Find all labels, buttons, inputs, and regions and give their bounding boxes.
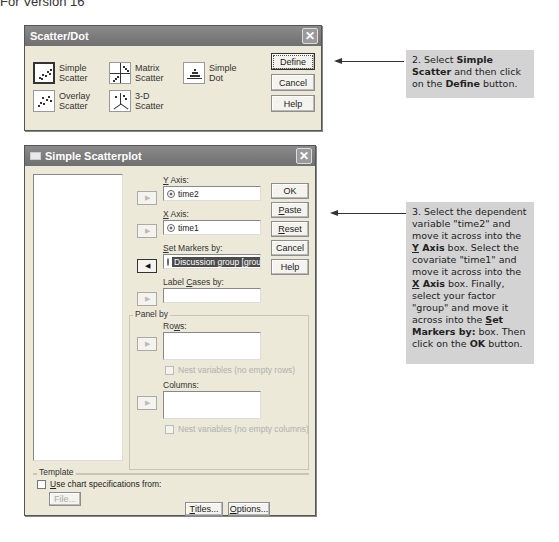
label-text: Label bbox=[163, 277, 186, 287]
scale-variable-icon bbox=[167, 190, 175, 198]
label-line1: 3-D bbox=[135, 91, 164, 101]
scale-variable-icon bbox=[167, 224, 175, 232]
label-text: Ro bbox=[163, 321, 174, 331]
callout-step3: 3. Select the dependent variable "time2"… bbox=[406, 202, 534, 364]
scatter-dot-dialog: Scatter/Dot ✕ SimpleScatter MatrixScatte… bbox=[24, 25, 322, 131]
arrow-right-icon: ▶ bbox=[145, 340, 150, 348]
arrow-right-icon: ▶ bbox=[145, 295, 150, 303]
move-columns-button[interactable]: ▶ bbox=[137, 396, 157, 410]
page-header: For Version 16 bbox=[0, 0, 85, 9]
dialog-title: Scatter/Dot bbox=[30, 30, 89, 42]
set-markers-field[interactable]: Discussion group [group bbox=[163, 254, 261, 269]
label-line2: Scatter bbox=[135, 101, 164, 111]
label-cases-label: Label Cases by: bbox=[163, 277, 224, 287]
reset-button[interactable]: Reset bbox=[271, 221, 309, 237]
ok-button[interactable]: OK bbox=[271, 183, 309, 199]
y-axis-field[interactable]: time2 bbox=[163, 186, 261, 201]
close-icon: ✕ bbox=[299, 150, 309, 162]
label-text: ptions... bbox=[237, 504, 269, 514]
chart-type-overlay-scatter[interactable]: OverlayScatter bbox=[33, 90, 90, 112]
note-text: button. bbox=[485, 338, 522, 349]
note-bold: Axis bbox=[419, 278, 445, 289]
simple-scatterplot-dialog: Simple Scatterplot ✕ ▶ Y Axis: time2 ▶ X… bbox=[24, 145, 316, 516]
nest-rows-checkbox[interactable]: Nest variables (no empty rows) bbox=[165, 365, 295, 375]
x-axis-value: time1 bbox=[178, 223, 199, 233]
close-button[interactable]: ✕ bbox=[302, 28, 318, 44]
move-y-axis-button[interactable]: ▶ bbox=[137, 191, 157, 205]
rows-list[interactable] bbox=[163, 332, 261, 360]
use-chart-specs-checkbox[interactable]: Use chart specifications from: bbox=[37, 479, 162, 489]
set-markers-value: Discussion group [group bbox=[172, 257, 261, 267]
y-axis-value: time2 bbox=[178, 189, 199, 199]
paste-button[interactable]: Paste bbox=[271, 202, 309, 218]
simple-scatter-icon bbox=[33, 62, 55, 84]
define-button[interactable]: Define bbox=[271, 53, 315, 70]
titlebar: Scatter/Dot ✕ bbox=[25, 26, 321, 46]
label-text: Axis: bbox=[169, 209, 189, 219]
help-button[interactable]: Help bbox=[271, 259, 309, 275]
checkbox-label: Nest variables (no empty rows) bbox=[178, 365, 295, 375]
label-line2: Scatter bbox=[59, 101, 90, 111]
file-button[interactable]: File... bbox=[49, 492, 81, 506]
label-line1: Simple bbox=[209, 63, 237, 73]
define-label: Define bbox=[273, 55, 313, 69]
checkbox-label: se chart specifications from: bbox=[56, 479, 161, 489]
cancel-button[interactable]: Cancel bbox=[271, 240, 309, 256]
panel-by-title: Panel by bbox=[133, 309, 170, 319]
template-title: Template bbox=[37, 467, 76, 477]
label-cases-field[interactable] bbox=[163, 288, 261, 303]
3d-scatter-icon bbox=[109, 90, 131, 112]
chart-type-matrix-scatter[interactable]: MatrixScatter bbox=[109, 62, 164, 84]
move-rows-button[interactable]: ▶ bbox=[137, 337, 157, 351]
chart-type-simple-scatter[interactable]: SimpleScatter bbox=[33, 62, 88, 84]
simple-dot-icon bbox=[183, 62, 205, 84]
label-text: eset bbox=[285, 224, 302, 234]
move-set-markers-button[interactable]: ◀ bbox=[137, 259, 157, 273]
checkbox-box bbox=[165, 366, 174, 375]
move-label-cases-button[interactable]: ▶ bbox=[137, 292, 157, 306]
arrow-right-icon: ▶ bbox=[145, 194, 150, 202]
note-bold: Axis bbox=[419, 242, 445, 253]
nest-columns-checkbox[interactable]: Nest variables (no empty columns) bbox=[165, 424, 309, 434]
label-line2: Scatter bbox=[59, 73, 88, 83]
help-button[interactable]: Help bbox=[271, 95, 315, 112]
note-mnemonic: Y bbox=[412, 242, 419, 253]
label-text: itles... bbox=[195, 504, 219, 514]
label-line1: Matrix bbox=[135, 63, 164, 73]
close-icon: ✕ bbox=[305, 30, 315, 42]
set-markers-label: Set Markers by: bbox=[163, 243, 223, 253]
columns-list[interactable] bbox=[163, 391, 261, 419]
x-axis-field[interactable]: time1 bbox=[163, 220, 261, 235]
label-text: Axis: bbox=[169, 175, 189, 185]
checkbox-label: Nest variables (no empty columns) bbox=[178, 424, 309, 434]
window-icon bbox=[30, 152, 41, 160]
rows-label: Rows: bbox=[163, 321, 187, 331]
chart-type-simple-dot[interactable]: SimpleDot bbox=[183, 62, 237, 84]
callout-step2: 2. Select Simple Scatter and then click … bbox=[406, 50, 534, 98]
close-button[interactable]: ✕ bbox=[296, 148, 312, 164]
matrix-scatter-icon bbox=[109, 62, 131, 84]
options-button[interactable]: Options... bbox=[228, 502, 270, 516]
label-text: et Markers by: bbox=[169, 243, 223, 253]
nominal-variable-icon bbox=[167, 258, 169, 266]
note-text: 2. Select bbox=[412, 54, 456, 65]
note-bold: OK bbox=[470, 338, 485, 349]
label-line1: Overlay bbox=[59, 91, 90, 101]
variable-list[interactable] bbox=[33, 174, 123, 461]
move-x-axis-button[interactable]: ▶ bbox=[137, 224, 157, 238]
label-text: s: bbox=[180, 321, 187, 331]
label-line2: Scatter bbox=[135, 73, 164, 83]
label-text: aste bbox=[285, 205, 302, 215]
callout-arrow-step2 bbox=[336, 61, 404, 62]
note-text: 3. Select the dependent variable "time2"… bbox=[412, 206, 526, 241]
note-bold: Define bbox=[445, 78, 480, 89]
label-mnemonic: O bbox=[230, 504, 237, 514]
columns-label: Columns: bbox=[163, 380, 199, 390]
label-line2: Dot bbox=[209, 73, 237, 83]
chart-type-3d-scatter[interactable]: 3-DScatter bbox=[109, 90, 164, 112]
checkbox-box bbox=[165, 425, 174, 434]
cancel-button[interactable]: Cancel bbox=[271, 74, 315, 91]
label-line1: Simple bbox=[59, 63, 88, 73]
titles-button[interactable]: Titles... bbox=[185, 502, 223, 516]
x-axis-label: X Axis: bbox=[163, 209, 189, 219]
